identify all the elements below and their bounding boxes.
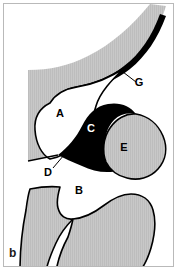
- label-c: C: [87, 122, 95, 134]
- region-lower-right-gray: [56, 194, 155, 271]
- label-e: E: [120, 141, 127, 153]
- label-g: G: [135, 76, 144, 88]
- region-gray-blob-e: [104, 114, 166, 179]
- label-a: A: [56, 107, 64, 119]
- label-d: D: [44, 166, 52, 178]
- label-b: B: [75, 184, 83, 196]
- panel-letter: b: [9, 247, 16, 259]
- figure-panel: A B C D E G b: [0, 0, 178, 271]
- figure-drawing: A B C D E G: [0, 0, 178, 271]
